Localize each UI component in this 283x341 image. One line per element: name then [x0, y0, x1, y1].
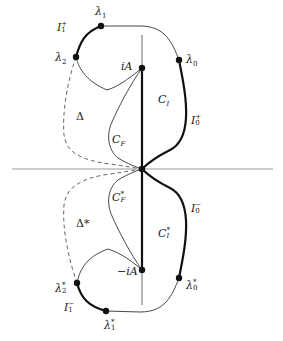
label-C-I: CI	[158, 94, 169, 108]
label-sub: I	[166, 100, 169, 108]
label-lambda0: λ0	[186, 54, 197, 68]
label-base: λ	[95, 5, 102, 18]
label-C-F: CF	[112, 134, 125, 148]
label-delta: Δ	[76, 111, 84, 122]
label-sub: 0	[195, 121, 201, 127]
label-I1-minus: I−1	[64, 302, 74, 314]
arc-lambda1star-lambda0star	[106, 278, 179, 312]
contour-I0-minus	[142, 169, 186, 278]
label-I1-plus: I+1	[57, 22, 67, 34]
arc-lambda1-lambda0	[101, 26, 179, 60]
label-iA: iA	[121, 61, 132, 72]
label-C-F-star: C*F	[112, 192, 125, 204]
label-base: λ	[55, 51, 62, 64]
point-lambda1	[98, 23, 104, 29]
label-neg-iA: −iA	[117, 266, 138, 277]
label-sub: 2	[62, 289, 66, 295]
point-lambda1-star	[103, 308, 109, 314]
label-sub: 1	[61, 28, 67, 34]
contour-I1-plus	[76, 26, 101, 57]
point-neg-iA	[139, 267, 145, 273]
label-delta-star: Δ*	[76, 218, 89, 229]
label-lambda1-star: λ*1	[104, 320, 115, 332]
label-lambda0-star: λ*0	[186, 280, 197, 292]
label-sub: I	[166, 234, 170, 240]
label-sub: 0	[195, 209, 201, 215]
label-base: λ	[186, 53, 193, 66]
point-lambda2-star	[74, 280, 80, 286]
label-sub: 0	[193, 60, 197, 68]
point-iA	[139, 65, 145, 71]
contour-I1-minus	[77, 283, 106, 311]
contour-C-F	[109, 68, 142, 169]
label-lambda2: λ2	[55, 52, 66, 66]
point-lambda0	[176, 57, 182, 63]
label-C-I-star: C*I	[158, 228, 170, 240]
label-lambda1: λ1	[95, 6, 106, 20]
label-sub: F	[120, 198, 125, 204]
label-lambda2-star: λ*2	[55, 283, 66, 295]
label-I0-plus: I+0	[191, 115, 201, 127]
label-sub: 1	[111, 326, 115, 332]
label-sub: 1	[102, 12, 106, 20]
label-base: λ	[186, 279, 193, 292]
contour-I0-plus	[142, 60, 186, 169]
label-I0-minus: I−0	[191, 203, 201, 215]
point-origin	[139, 166, 145, 172]
contour-diagram: λ1 I+1 λ2 λ0 iA CI I+0 Δ CF C*F Δ* I−0 C…	[0, 0, 283, 341]
point-lambda2	[73, 54, 79, 60]
label-sub: 1	[68, 308, 74, 314]
label-base: λ	[55, 282, 62, 295]
label-sub: 0	[193, 286, 197, 292]
point-lambda0-star	[176, 275, 182, 281]
diagram-svg	[0, 0, 283, 341]
contour-C-F-star	[109, 169, 142, 270]
label-base: λ	[104, 319, 111, 332]
label-sub: F	[120, 140, 125, 148]
label-sub: 2	[62, 58, 66, 66]
